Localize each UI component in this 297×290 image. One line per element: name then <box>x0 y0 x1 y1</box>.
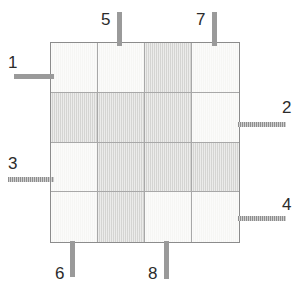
grid <box>50 42 240 243</box>
grid-cell-r1-c0 <box>51 93 98 143</box>
grid-cell-r0-c3 <box>192 43 239 93</box>
terminal-label-3: 3 <box>8 155 17 172</box>
terminal-label-2: 2 <box>282 99 291 116</box>
terminal-stub-2 <box>238 122 286 127</box>
grid-cell-r0-c2 <box>145 43 192 93</box>
grid-cell-r2-c1 <box>98 143 145 193</box>
connector-grid-diagram: 12345678 <box>0 0 297 290</box>
terminal-stub-5 <box>117 12 122 46</box>
terminal-label-1: 1 <box>8 54 17 71</box>
terminal-label-8: 8 <box>148 265 157 282</box>
grid-cell-r3-c0 <box>51 192 98 242</box>
terminal-stub-6 <box>70 241 75 277</box>
grid-cell-r2-c0 <box>51 143 98 193</box>
grid-cell-r2-c3 <box>192 143 239 193</box>
grid-cell-r2-c2 <box>145 143 192 193</box>
grid-cell-r3-c3 <box>192 192 239 242</box>
grid-cell-r1-c1 <box>98 93 145 143</box>
terminal-label-7: 7 <box>196 11 205 28</box>
grid-cell-r1-c2 <box>145 93 192 143</box>
terminal-stub-7 <box>212 12 217 46</box>
terminal-stub-3 <box>8 177 54 182</box>
terminal-stub-1 <box>14 74 54 79</box>
terminal-label-4: 4 <box>282 196 291 213</box>
terminal-stub-4 <box>238 216 286 221</box>
grid-cell-r0-c1 <box>98 43 145 93</box>
terminal-stub-8 <box>164 241 169 279</box>
grid-cell-r1-c3 <box>192 93 239 143</box>
grid-cell-r0-c0 <box>51 43 98 93</box>
grid-cell-r3-c2 <box>145 192 192 242</box>
grid-cell-r3-c1 <box>98 192 145 242</box>
terminal-label-5: 5 <box>101 11 110 28</box>
terminal-label-6: 6 <box>55 265 64 282</box>
